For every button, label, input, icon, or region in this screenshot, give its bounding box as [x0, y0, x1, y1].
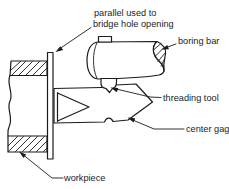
leader-center-gage: [128, 118, 185, 130]
label-parallel-line2: bridge hole opening: [93, 19, 174, 29]
label-boring-bar: boring bar: [178, 36, 219, 46]
label-threading-tool: threading tool: [163, 93, 219, 103]
leader-line: [132, 120, 185, 130]
workpiece: [8, 61, 47, 152]
workpiece-break-edge: [8, 76, 11, 137]
diagram-canvas: parallel used to bridge hole opening bor…: [0, 0, 229, 189]
leader-line: [59, 28, 92, 50]
label-workpiece: workpiece: [63, 173, 105, 183]
center-gage-body: [54, 84, 153, 123]
label-parallel-line1: parallel used to: [94, 8, 156, 18]
center-gage: [54, 84, 153, 123]
workpiece-lower-section: [8, 136, 47, 152]
technical-diagram: parallel used to bridge hole opening bor…: [0, 0, 229, 189]
boring-bar-body: [87, 42, 164, 80]
leader-parallel: [56, 28, 92, 53]
boring-bar-tab: [99, 37, 112, 43]
parallel-bar: [48, 53, 54, 160]
leader-line: [22, 154, 64, 179]
boring-bar: [87, 37, 166, 80]
leader-workpiece: [19, 152, 63, 179]
label-center-gage: center gage: [186, 124, 229, 134]
